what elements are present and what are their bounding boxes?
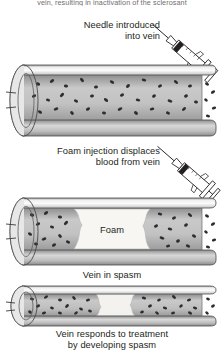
- vein-illustration-panel-2: Foam: [4, 196, 220, 266]
- panel-2-label: Foam injection displaces blood from vein: [34, 146, 160, 169]
- syringe-icon: [150, 140, 224, 204]
- vein-illustration-panel-3: [4, 285, 220, 327]
- panel-3-label: Vein in spasm: [0, 270, 224, 281]
- figure-foam-sclerotherapy: vein, resulting in inactivation of the s…: [0, 0, 224, 354]
- panel-3-caption: Vein responds to treatment by developing…: [0, 329, 224, 352]
- clipped-header-text: vein, resulting in inactivation of the s…: [0, 0, 224, 6]
- vein-illustration-panel-1: [4, 62, 220, 140]
- foam-label: Foam: [100, 225, 124, 235]
